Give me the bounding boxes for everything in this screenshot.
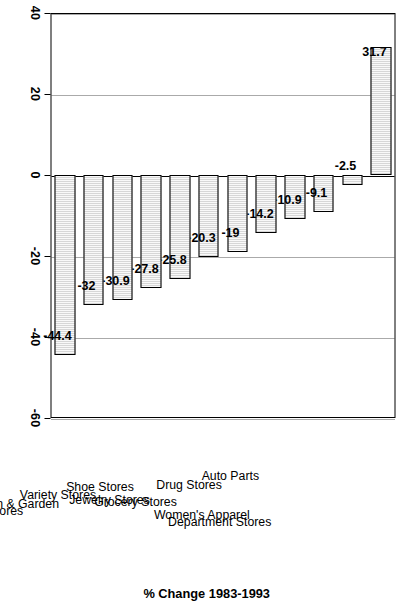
bar <box>370 47 391 175</box>
axis-tick-label: 40 <box>27 6 41 20</box>
bar <box>255 175 276 233</box>
category-label: Drug Stores <box>156 478 222 492</box>
axis-tick-label: -40 <box>27 328 41 347</box>
axis-tick <box>44 94 50 95</box>
category-label: Hardware Stores <box>0 504 23 518</box>
bar <box>54 175 75 355</box>
gridline <box>51 419 394 420</box>
bar-value-label: -14.2 <box>244 207 273 221</box>
bar-value-label: -27.8 <box>129 262 158 276</box>
bar-value-label: -32 <box>77 279 95 293</box>
axis-tick <box>44 13 50 14</box>
bar-value-label: -10.9 <box>273 193 302 207</box>
axis-tick-label: -20 <box>27 247 41 266</box>
bar-value-label: -44.4 <box>43 329 72 343</box>
axis-tick-label: -60 <box>27 409 41 428</box>
gridline <box>51 95 394 96</box>
bar-value-label: -9.1 <box>305 186 327 200</box>
bar-value-label: -20.3 <box>187 231 216 245</box>
bar-value-label: -19 <box>221 226 239 240</box>
axis-tick <box>44 256 50 257</box>
bar-value-label: -30.9 <box>101 274 130 288</box>
gridline <box>51 14 394 15</box>
bar-value-label: 31.7 <box>361 45 385 59</box>
value-axis-title: % Change 1983-1993 <box>143 586 270 601</box>
gridline <box>51 338 394 339</box>
bar-value-label: -25.8 <box>158 253 187 267</box>
axis-tick-label: 0 <box>27 171 41 178</box>
bar <box>227 175 248 252</box>
bar <box>342 175 363 185</box>
category-label: Women's Apparel <box>153 508 249 522</box>
axis-tick-label: 20 <box>27 87 41 101</box>
axis-tick <box>44 175 50 176</box>
bar-value-label: -2.5 <box>334 159 356 173</box>
axis-tick <box>44 418 50 419</box>
